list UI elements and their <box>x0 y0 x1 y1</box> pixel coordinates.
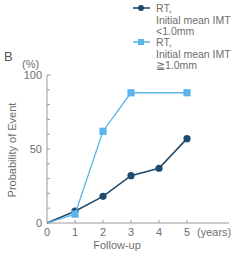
axes <box>47 75 229 223</box>
y-tick-label: 100 <box>24 69 42 81</box>
x-unit-label: (years) <box>197 226 231 238</box>
legend-label: RT, <box>156 36 172 48</box>
x-tick-label: 3 <box>128 226 134 238</box>
y-tick-label: 0 <box>36 217 42 229</box>
legend-label: RT, <box>156 2 172 14</box>
series-line-0 <box>47 139 187 223</box>
x-tick-label: 0 <box>44 226 50 238</box>
data-point <box>99 193 106 200</box>
legend-marker-0 <box>138 5 144 11</box>
data-point <box>127 89 134 96</box>
legend-label: Initial mean IMT <box>156 14 231 26</box>
data-point <box>127 172 134 179</box>
data-point <box>155 165 162 172</box>
x-axis-title: Follow-up <box>93 239 141 251</box>
y-axis-title: Probability of Event <box>6 103 18 198</box>
series-group <box>47 89 191 223</box>
y-tick-label: 50 <box>30 143 42 155</box>
series-line-1 <box>47 93 187 223</box>
panel-label: B <box>4 49 13 64</box>
data-point <box>99 128 106 135</box>
legend-label: Initial mean IMT <box>156 48 231 60</box>
data-point <box>183 89 190 96</box>
x-tick-label: 5 <box>184 226 190 238</box>
data-point <box>71 211 78 218</box>
y-tick-labels: 050100 <box>24 69 42 229</box>
legend-label: ≧1.0mm <box>156 59 197 71</box>
x-tick-label: 4 <box>156 226 162 238</box>
legend: RT,Initial mean IMT<1.0mmRT,Initial mean… <box>133 2 231 71</box>
x-tick-label: 2 <box>100 226 106 238</box>
x-tick-label: 1 <box>72 226 78 238</box>
chart: B (%) Probability of Event Follow-up (ye… <box>0 0 242 263</box>
legend-marker-1 <box>138 39 144 45</box>
data-point <box>183 135 190 142</box>
x-tick-labels: 012345 <box>44 226 190 238</box>
